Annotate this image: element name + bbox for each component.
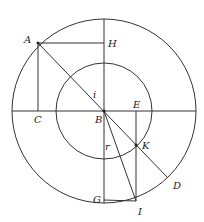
- label-H: H: [107, 38, 117, 49]
- point-K: [135, 144, 138, 147]
- label-A: A: [23, 34, 31, 45]
- label-r: r: [105, 141, 111, 152]
- label-G: G: [93, 194, 101, 205]
- line-GI: [104, 200, 136, 201]
- point-A: [37, 42, 40, 45]
- label-C: C: [34, 114, 42, 125]
- point-B: [103, 110, 106, 113]
- line-BI: [104, 111, 136, 201]
- geometry-diagram: A H i C B E r K D G I: [0, 0, 204, 222]
- label-D: D: [172, 180, 181, 191]
- label-E: E: [132, 99, 141, 110]
- label-B: B: [94, 114, 102, 125]
- label-i: i: [93, 89, 96, 100]
- label-K: K: [141, 140, 150, 151]
- label-I: I: [137, 206, 143, 217]
